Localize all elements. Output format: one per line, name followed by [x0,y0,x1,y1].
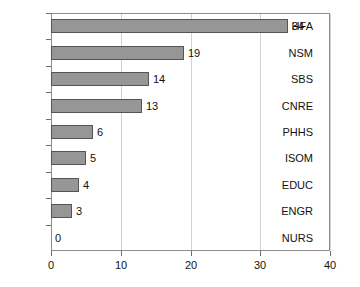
x-axis-tick [51,251,52,256]
x-axis-tick [260,251,261,256]
bar-value-label: 0 [55,231,61,245]
bar-value-label: 6 [97,125,103,139]
bar-value-label: 19 [188,46,200,60]
gridline [330,14,331,250]
bar [51,46,184,60]
category-tick [46,172,51,173]
bar [51,204,72,218]
category-tick [46,198,51,199]
bar-value-label: 14 [153,72,165,86]
category-tick [46,225,51,226]
category-label-hfa: HFA [292,19,313,33]
bar-value-label: 5 [90,151,96,165]
category-label-isom: ISOM [285,151,313,165]
bar-value-label: 13 [146,99,158,113]
x-axis-tick-label: 20 [185,259,197,272]
category-tick [46,145,51,146]
category-tick [46,119,51,120]
category-tick [46,39,51,40]
x-axis-tick-label: 0 [48,259,54,272]
category-tick [46,92,51,93]
category-label-engr: ENGR [281,204,313,218]
x-axis-tick [330,251,331,256]
category-label-sbs: SBS [291,72,313,86]
category-label-nsm: NSM [289,46,313,60]
category-label-educ: EDUC [282,178,313,192]
x-axis-tick [121,251,122,256]
bar [51,72,149,86]
category-label-phhs: PHHS [282,125,313,139]
category-tick [46,13,51,14]
bar [51,178,79,192]
bar-chart: 3419141365430 HFANSMSBSCNREPHHSISOMEDUCE… [0,0,360,287]
x-axis-tick-label: 40 [324,259,336,272]
x-axis-tick-label: 30 [254,259,266,272]
bar-value-label: 4 [83,178,89,192]
bar [51,125,93,139]
x-axis-tick-label: 10 [115,259,127,272]
gridline [260,14,261,250]
category-tick [46,66,51,67]
x-axis-tick [191,251,192,256]
bar [51,151,86,165]
bar [51,99,142,113]
category-label-nurs: NURS [282,231,313,245]
category-label-cnre: CNRE [282,99,313,113]
bar-value-label: 3 [76,204,82,218]
bar [51,19,288,33]
